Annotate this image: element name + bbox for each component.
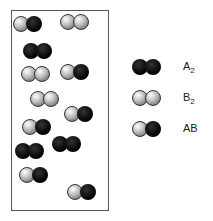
atom-a [145,121,161,137]
atom-a [145,59,161,75]
atom-a [80,184,96,200]
atom-a [65,136,81,152]
atom-b [145,90,161,106]
legend-label-b2: B2 [183,91,195,106]
atom-a [26,16,42,32]
atom-a [28,143,44,159]
legend-label-a2: A2 [183,60,195,75]
atom-a [32,167,48,183]
atom-b [73,14,89,30]
atom-a [77,106,93,122]
legend-label-ab: AB [183,122,198,134]
atom-b [34,66,50,82]
atom-a [36,43,52,59]
atom-a [73,64,89,80]
atom-b [43,91,59,107]
atom-a [35,119,51,135]
